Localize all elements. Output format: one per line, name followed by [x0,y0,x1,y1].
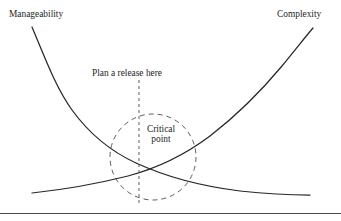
curve-manageability [32,27,310,195]
clipped-text-below-rule [0,216,341,221]
annotation-label-plan-release: Plan a release here [92,69,162,79]
curve-label-complexity: Complexity [277,10,321,20]
critical-point-line-1: Critical [147,124,175,134]
curve-label-manageability: Manageability [9,10,63,20]
curve-complexity [32,28,313,193]
figure-canvas: Manageability Complexity Plan a release … [0,0,341,221]
horizontal-rule [0,213,341,214]
diagram-svg [0,0,341,221]
annotation-label-critical-point: Critical point [137,125,185,145]
critical-point-line-2: point [137,135,185,145]
